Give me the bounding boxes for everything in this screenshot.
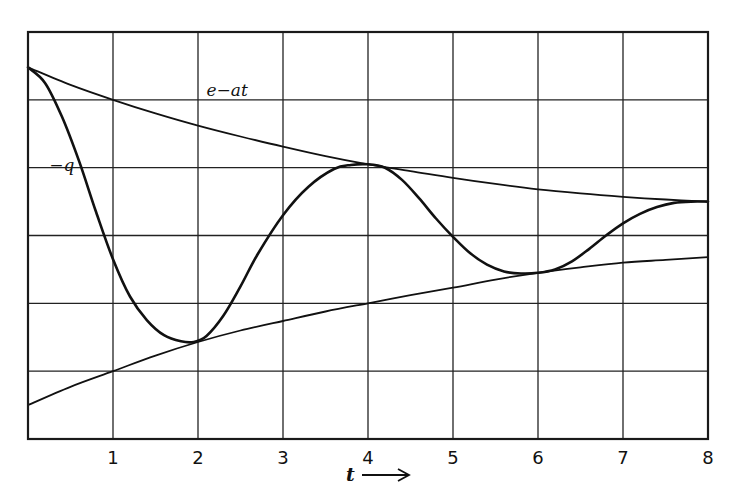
x-tick-label: 8 [702,447,713,468]
x-axis-label-text: t [346,463,355,485]
curve-label-neg-q: −q [49,155,74,175]
x-tick-label: 3 [277,447,288,468]
x-tick-label: 1 [107,447,118,468]
curve-label-upper-envelope: e−at [207,80,248,100]
x-tick-label: 2 [192,447,203,468]
right-arrow-icon [362,469,409,481]
x-axis-label: t [346,463,409,485]
x-tick-label: 4 [362,447,373,468]
chart: 12345678 e−at−q t [0,0,739,496]
x-tick-label: 7 [617,447,628,468]
x-tick-labels: 12345678 [107,447,713,468]
x-tick-label: 6 [532,447,543,468]
x-tick-label: 5 [447,447,458,468]
